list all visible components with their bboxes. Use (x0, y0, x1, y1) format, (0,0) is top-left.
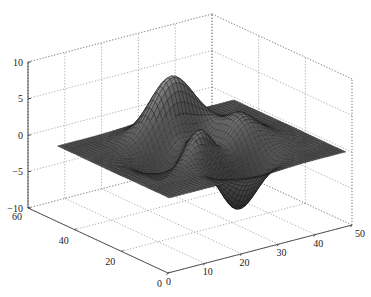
x-axis (168, 225, 352, 273)
box-edge (212, 14, 352, 79)
wall-grid-z (28, 14, 212, 62)
x-tick-label: 50 (355, 228, 365, 239)
y-tick-label: 40 (59, 235, 69, 246)
x-tick (167, 273, 169, 275)
z-tick-label: 5 (18, 93, 23, 104)
x-tick-label: 30 (276, 247, 286, 258)
z-tick-label: −10 (7, 203, 23, 214)
x-tick-label: 20 (240, 257, 250, 268)
x-tick-label: 40 (313, 238, 323, 249)
y-tick (75, 229, 77, 230)
floor-grid-x (102, 189, 242, 254)
side-grid-z (212, 14, 352, 79)
y-tick-label: 20 (105, 256, 115, 267)
z-tick-label: −5 (12, 166, 23, 177)
surface-plot: 010203040500204060−10−50510 (0, 0, 371, 297)
z-tick-label: 0 (18, 130, 23, 141)
floor-grid-x (65, 198, 205, 263)
y-tick-label: 0 (157, 278, 162, 289)
y-axis (28, 208, 168, 273)
x-tick-label: 10 (203, 266, 213, 277)
x-tick-label: 0 (166, 276, 171, 287)
y-tick (121, 250, 123, 251)
z-tick-label: 10 (13, 57, 23, 68)
box-edge (28, 14, 212, 62)
